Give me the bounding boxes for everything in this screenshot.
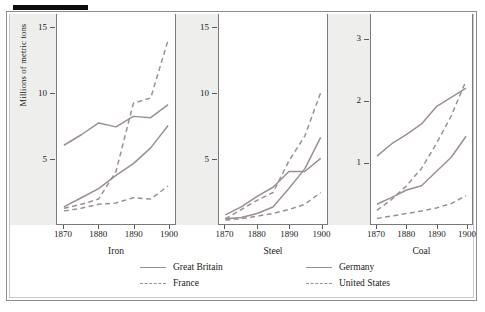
panel-steel: 510151870188018901900Steel — [176, 14, 328, 242]
panel-iron: Millions of metric tons51015187018801890… — [10, 14, 176, 242]
series-line-france — [64, 40, 168, 208]
x-tick-label: 1880 — [240, 230, 274, 239]
y-tick-mark — [50, 159, 55, 160]
plot-area — [56, 14, 176, 225]
series-line-germany — [225, 137, 320, 218]
x-tick-label: 1900 — [450, 230, 484, 239]
x-tick-label: 1870 — [359, 230, 393, 239]
y-tick-label: 5 — [10, 155, 47, 164]
legend-label: Germany — [339, 262, 374, 273]
x-tick-label: 1890 — [272, 230, 306, 239]
y-tick-label: 10 — [10, 89, 47, 98]
legend-swatch-dashed-line-icon — [140, 283, 166, 284]
y-tick-label: 10 — [176, 89, 209, 98]
plot-area — [370, 14, 473, 225]
y-tick-label: 5 — [176, 155, 209, 164]
legend-item-united-states[interactable]: United States — [306, 278, 390, 289]
x-tick-label: 1880 — [389, 230, 423, 239]
y-tick-label: 1 — [328, 158, 361, 167]
legend-label: Great Britain — [173, 262, 223, 273]
y-tick-label: 3 — [328, 34, 361, 43]
y-tick-label: 15 — [176, 23, 209, 32]
series-line-germany — [377, 136, 466, 204]
legend-swatch-solid-line-icon — [140, 267, 166, 268]
figure-root: Millions of metric tons51015187018801890… — [0, 0, 485, 312]
y-tick-mark — [364, 101, 369, 102]
series-canvas — [371, 14, 472, 224]
y-axis-strip — [176, 14, 218, 225]
y-tick-mark — [212, 159, 217, 160]
series-line-great-britain — [377, 88, 466, 156]
y-tick-mark — [364, 39, 369, 40]
legend-label: France — [173, 278, 199, 289]
y-tick-label: 15 — [10, 23, 47, 32]
legend-item-great-britain[interactable]: Great Britain — [140, 262, 223, 273]
x-tick-label: 1870 — [46, 230, 80, 239]
chart-legend: Great BritainGermanyFranceUnited States — [140, 262, 440, 296]
x-tick-label: 1890 — [420, 230, 454, 239]
x-tick-label: 1870 — [207, 230, 241, 239]
y-tick-mark — [50, 93, 55, 94]
x-tick-label: 1880 — [81, 230, 115, 239]
y-tick-mark — [50, 27, 55, 28]
plot-area — [218, 14, 328, 225]
y-axis-strip — [10, 14, 56, 225]
y-tick-mark — [212, 27, 217, 28]
y-axis-strip — [328, 14, 370, 225]
series-canvas — [219, 14, 327, 224]
legend-swatch-dashed-line-icon — [306, 283, 332, 284]
legend-item-germany[interactable]: Germany — [306, 262, 374, 273]
y-tick-mark — [212, 93, 217, 94]
y-tick-mark — [364, 163, 369, 164]
panel-title: Steel — [218, 246, 328, 256]
series-line-germany — [64, 126, 168, 207]
legend-swatch-solid-line-icon — [306, 267, 332, 268]
series-line-united-states — [377, 196, 466, 219]
plot-panels: Millions of metric tons51015187018801890… — [10, 14, 473, 242]
legend-item-france[interactable]: France — [140, 278, 199, 289]
legend-label: United States — [339, 278, 390, 289]
y-axis-label: Millions of metric tons — [18, 0, 28, 140]
series-canvas — [57, 14, 175, 224]
series-line-france — [225, 93, 320, 219]
panel-coal: 1231870188018901900Coal — [328, 14, 473, 242]
x-tick-label: 1890 — [117, 230, 151, 239]
series-line-great-britain — [64, 105, 168, 146]
y-tick-label: 2 — [328, 96, 361, 105]
panel-title: Iron — [56, 246, 176, 256]
panel-title: Coal — [370, 246, 473, 256]
